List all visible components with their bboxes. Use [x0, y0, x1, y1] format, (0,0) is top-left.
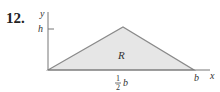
- half-numerator: 1: [116, 74, 120, 83]
- b-label: b: [194, 72, 199, 83]
- x-axis-label: x: [209, 70, 215, 81]
- h-label: h: [38, 23, 43, 34]
- y-axis-label: y: [39, 8, 45, 19]
- half-denominator: 2: [116, 83, 120, 92]
- half-b-label: b: [123, 77, 128, 88]
- triangle-region-diagram: y h R 1 2 b b x: [0, 0, 220, 92]
- region-label: R: [117, 49, 125, 61]
